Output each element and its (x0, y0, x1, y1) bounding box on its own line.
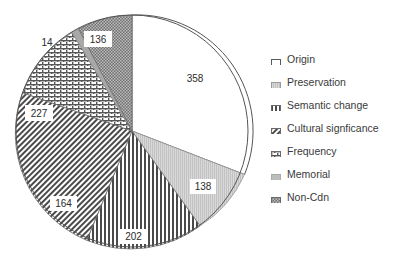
chart-legend: Origin Preservation Semantic change Cult… (271, 48, 403, 209)
legend-item-preservation[interactable]: Preservation (271, 71, 403, 94)
dense-dots-swatch (271, 193, 281, 203)
legend-item-cultural-signficance[interactable]: Cultural signficance (271, 117, 403, 140)
legend-label-origin: Origin (287, 54, 315, 65)
pie-slices (15, 15, 253, 249)
pie-chart-area: 358 138 202 164 227 14 136 (0, 0, 265, 264)
data-label-preservation: 138 (195, 181, 212, 192)
data-label-frequency: 227 (31, 108, 48, 119)
legend-item-non-cdn[interactable]: Non-Cdn (271, 186, 403, 209)
data-label-cultural-signficance: 164 (55, 198, 72, 209)
brick-grid-swatch (271, 147, 281, 157)
data-label-non-cdn: 136 (90, 34, 107, 45)
vertical-bars-swatch (271, 101, 281, 111)
solid-gray-swatch (271, 170, 281, 180)
legend-item-semantic-change[interactable]: Semantic change (271, 94, 403, 117)
pie-svg: 358 138 202 164 227 14 136 (0, 0, 265, 264)
empty-square-swatch (271, 55, 281, 65)
legend-item-origin[interactable]: Origin (271, 48, 403, 71)
data-label-origin: 358 (187, 73, 204, 84)
legend-item-memorial[interactable]: Memorial (271, 163, 403, 186)
legend-label-frequency: Frequency (287, 146, 337, 157)
legend-label-cultural-signficance: Cultural signficance (287, 123, 379, 134)
data-label-semantic-change: 202 (125, 231, 142, 242)
pie-chart-figure: 358 138 202 164 227 14 136 (0, 0, 403, 264)
legend-item-frequency[interactable]: Frequency (271, 140, 403, 163)
diagonal-lines-swatch (271, 124, 281, 134)
legend-label-semantic-change: Semantic change (287, 100, 368, 111)
legend-label-memorial: Memorial (287, 169, 330, 180)
data-label-memorial: 14 (41, 37, 53, 48)
legend-label-preservation: Preservation (287, 77, 346, 88)
light-gray-swatch (271, 78, 281, 88)
legend-label-non-cdn: Non-Cdn (287, 192, 329, 203)
